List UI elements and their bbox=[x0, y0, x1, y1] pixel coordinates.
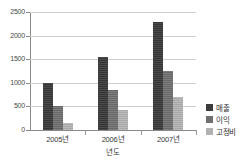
y-tick-label: 1000 bbox=[0, 79, 25, 86]
x-axis-title: 년도 bbox=[30, 146, 196, 157]
plot-area bbox=[30, 12, 196, 130]
bar bbox=[98, 57, 108, 130]
bar bbox=[108, 90, 118, 130]
y-tick-label: 1500 bbox=[0, 55, 25, 62]
legend-swatch-icon bbox=[206, 104, 213, 111]
legend: 매출이익고정비 bbox=[206, 101, 249, 137]
legend-label: 이익 bbox=[216, 114, 229, 125]
y-tick-mark bbox=[26, 83, 30, 84]
legend-swatch-icon bbox=[206, 128, 213, 135]
bar-group bbox=[43, 12, 73, 130]
bar bbox=[118, 110, 128, 130]
y-tick-label: 500 bbox=[0, 102, 25, 109]
x-tick-label: 2007년 bbox=[141, 133, 196, 144]
y-tick-mark bbox=[26, 12, 30, 13]
y-tick-mark bbox=[26, 36, 30, 37]
y-tick-label: 2000 bbox=[0, 32, 25, 39]
legend-item[interactable]: 고정비 bbox=[206, 125, 249, 137]
y-tick-mark bbox=[26, 130, 30, 131]
x-category-separator bbox=[196, 130, 197, 135]
y-tick-label: 0 bbox=[0, 126, 25, 133]
bar-group bbox=[98, 12, 128, 130]
bar bbox=[53, 106, 63, 130]
y-tick-mark bbox=[26, 59, 30, 60]
bar bbox=[153, 22, 163, 130]
x-tick-label: 2005년 bbox=[30, 133, 85, 144]
legend-item[interactable]: 이익 bbox=[206, 113, 249, 125]
legend-label: 매출 bbox=[216, 102, 229, 113]
y-tick-mark bbox=[26, 106, 30, 107]
y-tick-label: 2500 bbox=[0, 8, 25, 15]
legend-swatch-icon bbox=[206, 116, 213, 123]
legend-label: 고정비 bbox=[216, 126, 236, 137]
bar bbox=[163, 71, 173, 130]
bar-chart: 05001000150020002500 2005년2006년2007년 년도 … bbox=[0, 0, 249, 160]
bar bbox=[63, 123, 73, 130]
x-tick-label: 2006년 bbox=[85, 133, 140, 144]
legend-item[interactable]: 매출 bbox=[206, 101, 249, 113]
bar bbox=[173, 97, 183, 130]
bar bbox=[43, 83, 53, 130]
bar-group bbox=[153, 12, 183, 130]
x-axis-line bbox=[30, 130, 196, 131]
